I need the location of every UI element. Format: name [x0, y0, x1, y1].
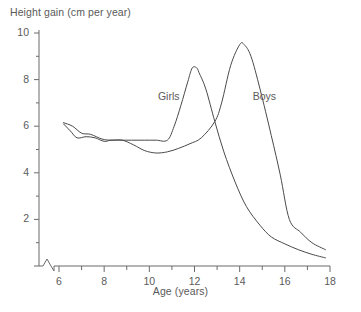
y-tick-label: 6 — [7, 119, 29, 131]
series-group — [64, 43, 326, 258]
series-label-girls: Girls — [158, 90, 180, 102]
chart-container: Height gain (cm per year) 0246810 681012… — [0, 0, 361, 312]
series-label-boys: Boys — [253, 90, 276, 102]
y-tick-label: 10 — [7, 26, 29, 38]
y-tick-label: 4 — [7, 166, 29, 178]
series-line-girls — [64, 67, 326, 258]
y-tick-label: 2 — [7, 212, 29, 224]
series-line-boys — [64, 43, 326, 250]
x-axis-title: Age (years) — [0, 285, 361, 297]
axes-group — [34, 30, 330, 272]
y-tick-label: 8 — [7, 73, 29, 85]
plot-area — [0, 0, 361, 312]
axis-break-icon — [39, 259, 54, 271]
